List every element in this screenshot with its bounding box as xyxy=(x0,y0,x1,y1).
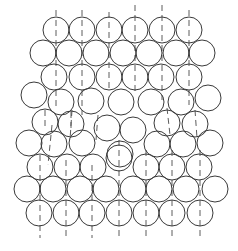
circle xyxy=(136,40,162,66)
circle xyxy=(202,176,228,202)
circle xyxy=(94,115,120,141)
dashed-line xyxy=(195,110,197,138)
circle xyxy=(69,64,95,90)
circle xyxy=(110,40,136,66)
circle xyxy=(16,130,42,156)
circle xyxy=(148,64,174,90)
circle xyxy=(14,176,40,202)
circle xyxy=(56,40,82,66)
circle xyxy=(69,130,95,156)
circle-packing-diagram xyxy=(0,0,238,251)
circle xyxy=(120,176,146,202)
dashed-line xyxy=(167,108,170,135)
circle xyxy=(138,89,164,115)
circle xyxy=(189,40,215,66)
circle xyxy=(93,176,119,202)
circle xyxy=(96,17,122,43)
circle xyxy=(146,176,172,202)
circle xyxy=(197,130,223,156)
circle xyxy=(195,85,221,111)
circle xyxy=(176,64,202,90)
circle xyxy=(21,82,47,108)
circle xyxy=(79,200,105,226)
circle xyxy=(163,40,189,66)
circle xyxy=(67,176,93,202)
circle xyxy=(41,131,67,157)
circle xyxy=(108,89,134,115)
circle xyxy=(30,40,56,66)
circle xyxy=(173,176,199,202)
circle xyxy=(40,176,66,202)
circle xyxy=(41,64,67,90)
circle xyxy=(154,110,180,136)
circle xyxy=(83,40,109,66)
circle xyxy=(120,117,146,143)
circle xyxy=(26,200,52,226)
circle xyxy=(170,131,196,157)
circle xyxy=(144,131,170,157)
